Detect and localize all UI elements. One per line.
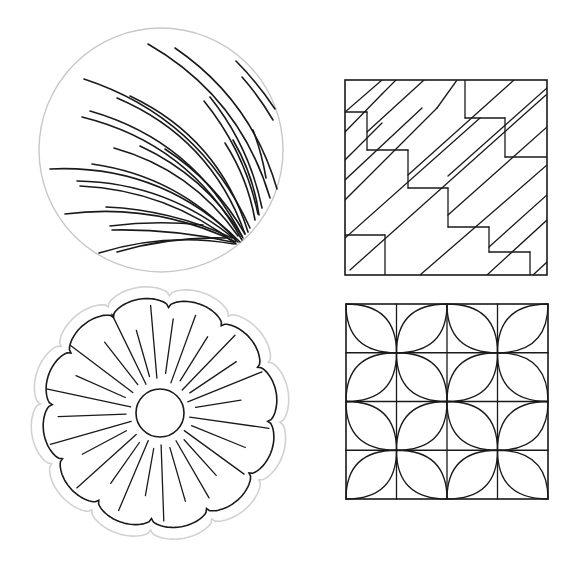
stair-line	[408, 80, 514, 175]
stair-line	[345, 108, 422, 180]
orange-peel-petal	[447, 450, 498, 499]
stair-line	[487, 220, 547, 275]
orange-peel-petal	[346, 304, 397, 353]
orange-peel-petal	[498, 402, 549, 451]
orange-peel-petal	[397, 450, 448, 499]
orange-peel-petal	[447, 304, 498, 353]
circle-fan-arcs-design	[39, 28, 283, 272]
stair-line	[345, 80, 382, 112]
orange-peel-grid-design	[346, 304, 548, 499]
stair-line	[533, 262, 547, 275]
square-border	[345, 80, 547, 275]
fan-arc-line	[236, 61, 275, 109]
fan-arc-line	[90, 111, 243, 238]
orange-peel-petal	[447, 402, 498, 451]
orange-peel-petal	[346, 353, 397, 402]
fan-arc-line	[84, 79, 250, 228]
orange-peel-petal	[397, 353, 448, 402]
stair-line	[382, 80, 396, 94]
stair-line	[345, 108, 437, 200]
stair-line	[448, 127, 547, 215]
stair-line	[345, 94, 382, 132]
stair-line	[420, 165, 547, 275]
stair-line	[345, 123, 382, 160]
orange-peel-petal	[498, 353, 549, 402]
orange-peel-petal	[346, 450, 397, 499]
orange-peel-petal	[498, 450, 549, 499]
diagonal-stairs-square-design	[345, 80, 547, 275]
orange-peel-petal	[397, 304, 448, 353]
flower-scalloped-edge	[43, 299, 277, 528]
stair-line	[448, 88, 547, 176]
stair-line	[437, 80, 457, 108]
pattern-illustration	[0, 0, 577, 568]
scalloped-flower-design	[31, 287, 288, 539]
orange-peel-petal	[397, 402, 448, 451]
fan-arc-line	[110, 223, 203, 226]
stair-line	[367, 80, 424, 132]
orange-peel-petal	[447, 353, 498, 402]
stair-line	[489, 195, 547, 247]
orange-peel-petal	[346, 402, 397, 451]
stair-line	[345, 118, 480, 238]
orange-peel-petal	[498, 304, 549, 353]
